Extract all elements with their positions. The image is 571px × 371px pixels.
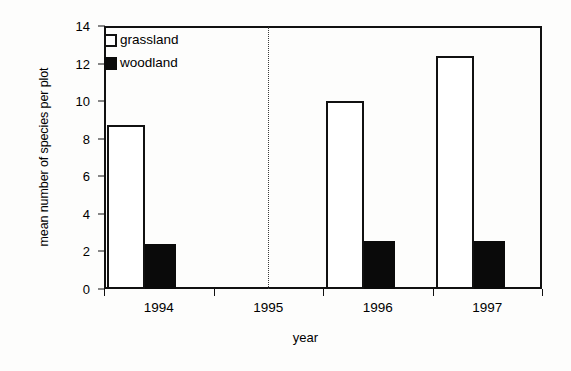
x-axis-tick-label: 1997 [472, 300, 502, 315]
bar-grassland-1996 [326, 101, 364, 289]
x-axis-tick [542, 289, 543, 296]
y-tick-label: 6 [83, 170, 90, 183]
y-tick-label: 12 [76, 57, 90, 70]
legend-item-woodland: woodland [104, 54, 179, 72]
x-axis-tick-label: 1994 [144, 300, 174, 315]
y-tick-label: 0 [83, 283, 90, 296]
bar-grassland-1997 [436, 56, 474, 289]
bar-woodland-1996 [364, 241, 395, 289]
x-axis-tick-label: 1995 [253, 300, 283, 315]
x-axis-tick [433, 289, 434, 296]
legend-swatch-open-square-icon [104, 34, 117, 47]
chart-legend: grassland woodland [104, 31, 179, 72]
y-tick-label: 14 [76, 20, 90, 33]
year-1995-dotted-divider [268, 27, 269, 289]
x-axis-title: year [0, 330, 571, 345]
y-axis-tick-labels: 14 12 10 8 6 4 2 0 [60, 26, 98, 289]
bar-grassland-1994 [107, 125, 145, 289]
bar-woodland-1997 [474, 241, 505, 289]
x-axis-tick [214, 289, 215, 296]
legend-item-grassland: grassland [104, 31, 179, 49]
legend-label-woodland: woodland [120, 56, 178, 70]
y-tick-label: 2 [83, 245, 90, 258]
bar-woodland-1994 [145, 244, 176, 289]
x-axis-tick-label: 1996 [363, 300, 393, 315]
x-axis-tick [104, 289, 105, 296]
x-axis-title-text: year [253, 330, 318, 345]
bar-chart: mean number of species per plot 14 12 10… [0, 0, 571, 371]
y-axis-title: mean number of species per plot [37, 17, 51, 297]
y-tick-label: 8 [83, 132, 90, 145]
legend-swatch-filled-square-icon [104, 57, 117, 70]
legend-label-grassland: grassland [120, 33, 179, 47]
y-tick-label: 4 [83, 207, 90, 220]
x-axis-tick [323, 289, 324, 296]
y-tick-label: 10 [76, 95, 90, 108]
